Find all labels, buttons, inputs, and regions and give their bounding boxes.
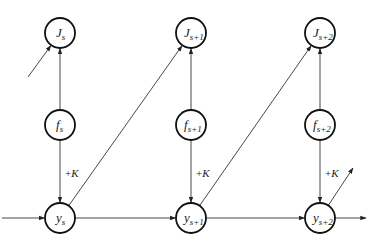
gain-label: +K: [65, 167, 79, 179]
edge-y-sp1-to-j-sp2-arrow: [200, 46, 312, 206]
gain-label: +K: [196, 167, 210, 179]
node-j-s: Js: [45, 18, 75, 48]
node-f-sp2: fs+2: [305, 110, 335, 140]
node-y-sp1: ys+1: [176, 203, 206, 233]
node-y-s: ys: [45, 203, 75, 233]
nodes-layer: JsfsysJs+1fs+1ys+1Js+2fs+2ys+2: [45, 18, 335, 233]
node-j-sp1: Js+1: [176, 18, 206, 48]
edge-y-s-to-j-sp1-arrow: [69, 46, 182, 206]
flow-diagram: JsfsysJs+1fs+1ys+1Js+2fs+2ys+2 +K+K+K: [0, 0, 383, 246]
node-f-s: fs: [45, 110, 75, 140]
gain-label: +K: [325, 167, 339, 179]
edge-labels-layer: +K+K+K: [65, 167, 339, 179]
node-f-sp1: fs+1: [176, 110, 206, 140]
node-j-sp2: Js+2: [305, 18, 335, 48]
edge-external-to-j-s-arrow: [28, 46, 51, 77]
node-y-sp2: ys+2: [305, 203, 335, 233]
